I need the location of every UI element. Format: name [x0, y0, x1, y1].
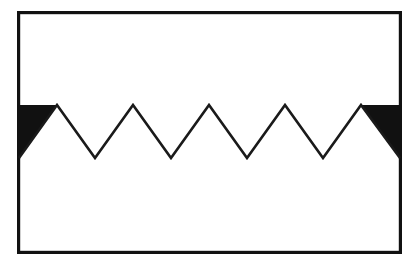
zigzag-figure-svg: Zigzag sawtooth pattern inside rectangul… — [0, 0, 418, 274]
figure-canvas: Zigzag sawtooth pattern inside rectangul… — [0, 0, 418, 274]
